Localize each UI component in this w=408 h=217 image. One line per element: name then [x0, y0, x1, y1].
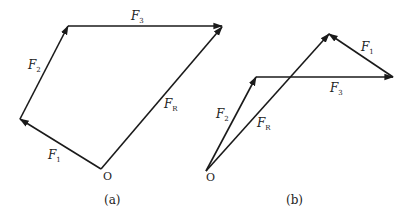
panel-a: F1 F2 F3 FR O (a): [20, 9, 222, 207]
origin-a: O: [103, 170, 112, 183]
label-b-f3: F3: [329, 81, 343, 97]
label-a-f2: F2: [27, 58, 41, 74]
label-b-f2: F2: [215, 107, 229, 123]
label-a-f1: F1: [47, 148, 61, 164]
caption-b: (b): [286, 193, 303, 207]
label-b-fr: FR: [256, 116, 271, 132]
force-polygon-figure: F1 F2 F3 FR O (a) F2 F3 F1 FR O (b): [0, 0, 408, 217]
vector-b-fr: [206, 34, 329, 171]
label-a-fr: FR: [163, 97, 178, 113]
vector-a-f2: [20, 26, 68, 119]
label-b-f1: F1: [360, 40, 374, 56]
caption-a: (a): [104, 193, 121, 207]
label-a-f3: F3: [130, 9, 144, 25]
origin-b: O: [206, 171, 215, 184]
panel-b: F2 F3 F1 FR O (b): [206, 34, 393, 207]
vector-a-fr: [101, 27, 222, 169]
